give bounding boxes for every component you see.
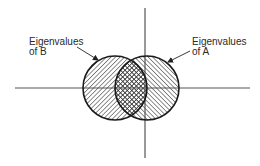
label-a-line2: of A — [192, 47, 246, 57]
label-eigenvalues-of-a: Eigenvalues of A — [192, 37, 246, 57]
arrow-to-a — [168, 51, 190, 62]
label-eigenvalues-of-b: Eigenvalues of B — [29, 37, 83, 57]
eigenvalue-venn-diagram — [0, 0, 260, 166]
label-b-line2: of B — [29, 47, 83, 57]
